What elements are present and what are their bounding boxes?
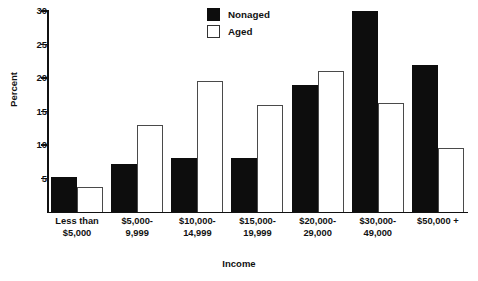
- y-axis-tick-label: 15: [13, 107, 47, 116]
- y-axis-tick-label: 30: [13, 6, 47, 15]
- bar-nonaged: [352, 11, 378, 212]
- legend-item: Aged: [207, 24, 270, 39]
- bar-group: [288, 11, 348, 212]
- bar-group: [227, 11, 287, 212]
- legend-item: Nonaged: [207, 7, 270, 22]
- bar-aged: [378, 103, 404, 212]
- y-axis-tick-label: 5: [13, 174, 47, 183]
- legend-swatch-icon: [207, 8, 220, 21]
- x-axis-label: Income: [0, 258, 478, 269]
- x-axis-tick-label: $20,000-29,000: [288, 216, 348, 239]
- bar-group: [408, 11, 468, 212]
- bar-group: [107, 11, 167, 212]
- x-axis-tick-label: $15,000-19,999: [227, 216, 287, 239]
- x-axis-tick-label: $10,000-14,999: [167, 216, 227, 239]
- bar-aged: [77, 187, 103, 212]
- y-axis-ticks: 51015202530: [0, 0, 47, 1]
- x-axis-tick-labels: Less than$5,000$5,000-9,999$10,000-14,99…: [47, 216, 468, 239]
- bar-nonaged: [292, 85, 318, 212]
- legend-label: Aged: [228, 26, 253, 37]
- y-axis-tick-label: 10: [13, 140, 47, 149]
- bar-aged: [318, 71, 344, 212]
- bar-group: [348, 11, 408, 212]
- x-axis-tick-label: $5,000-9,999: [107, 216, 167, 239]
- y-axis-tick-label: 25: [13, 40, 47, 49]
- bar-chart: Percent 51015202530 Less than$5,000$5,00…: [0, 0, 478, 281]
- bar-group: [47, 11, 107, 212]
- x-axis-tick-label: Less than$5,000: [47, 216, 107, 239]
- bar-groups: [47, 11, 468, 212]
- bar-aged: [137, 125, 163, 212]
- legend: NonagedAged: [207, 7, 270, 41]
- legend-swatch-icon: [207, 25, 220, 38]
- bar-aged: [197, 81, 223, 212]
- legend-label: Nonaged: [228, 9, 270, 20]
- bar-aged: [438, 148, 464, 212]
- bar-nonaged: [231, 158, 257, 212]
- bar-nonaged: [51, 177, 77, 212]
- x-axis-tick-label: $50,000 +: [408, 216, 468, 239]
- bar-nonaged: [412, 65, 438, 212]
- bar-nonaged: [171, 158, 197, 212]
- bar-group: [167, 11, 227, 212]
- bar-aged: [257, 105, 283, 212]
- x-axis-tick-label: $30,000-49,000: [348, 216, 408, 239]
- bar-nonaged: [111, 164, 137, 212]
- y-axis-tick-label: 20: [13, 73, 47, 82]
